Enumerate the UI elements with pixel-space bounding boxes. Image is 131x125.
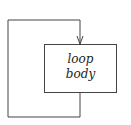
- loop-body-label-line2: body: [44, 67, 117, 82]
- loop-body-label: loop body: [44, 52, 117, 82]
- loop-body-label-line1: loop: [44, 52, 117, 67]
